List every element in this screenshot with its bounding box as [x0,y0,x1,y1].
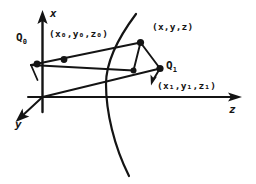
point-label-q0: Q0 [16,32,27,46]
connector-left [134,43,141,71]
point-dot-q1 [156,65,163,72]
diagram-drawing [0,0,256,184]
connector-base [31,65,134,71]
y-axis-line [22,97,43,116]
point-dot-corner [131,68,137,74]
q1-base: Q [166,59,173,72]
x-axis-label: x [50,8,57,19]
point-dot-p0 [61,56,68,63]
q1-subscript: 1 [173,66,177,74]
diagram-canvas: x y z Q0 Q1 (x₀,y₀,z₀) (x,y,z) (x₁,y₁,z₁… [0,0,256,184]
point-dot-p [137,39,144,46]
q0-subscript: 0 [23,38,27,46]
y-axis-label: y [15,119,22,130]
z-axis-label: z [229,104,236,115]
upper-ray [31,43,141,66]
lower-ray [43,69,161,98]
coordinate-label-p0: (x₀,y₀,z₀) [49,29,108,39]
point-dot-q0 [34,61,41,68]
coordinate-label-p: (x,y,z) [152,22,193,32]
connector-right [141,43,161,69]
point-label-q1: Q1 [166,60,177,74]
curve [106,14,136,176]
coordinate-label-p1: (x₁,y₁,z₁) [157,81,216,91]
q0-base: Q [16,31,23,44]
